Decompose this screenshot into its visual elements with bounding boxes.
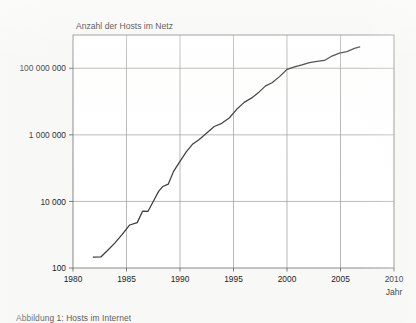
x-tick-label: 2000 [278, 274, 297, 284]
y-axis-ticks [69, 68, 73, 268]
x-tick-label: 1990 [171, 274, 190, 284]
x-tick-label: 1995 [224, 274, 243, 284]
x-tick-label: 1985 [117, 274, 136, 284]
x-axis-tick-labels: 1980198519901995200020052010 [64, 274, 404, 284]
x-tick-label: 2010 [385, 274, 404, 284]
x-axis-ticks [73, 268, 394, 272]
y-tick-label: 10 000 [40, 197, 66, 207]
hosts-line-chart: 1980198519901995200020052010 10010 0001 … [0, 0, 416, 323]
x-axis-title: Jahr [386, 287, 403, 297]
y-axis-tick-labels: 10010 0001 000 000100 000 000 [19, 63, 66, 273]
y-tick-label: 100 000 000 [19, 63, 66, 73]
y-tick-label: 100 [52, 263, 66, 273]
y-tick-label: 1 000 000 [29, 130, 67, 140]
chart-title: Anzahl der Hosts im Netz [76, 21, 173, 31]
x-tick-label: 2005 [331, 274, 350, 284]
chart-figure: 1980198519901995200020052010 10010 0001 … [0, 0, 416, 323]
figure-caption: Abbildung 1: Hosts im Internet [16, 313, 131, 323]
x-tick-label: 1980 [64, 274, 83, 284]
